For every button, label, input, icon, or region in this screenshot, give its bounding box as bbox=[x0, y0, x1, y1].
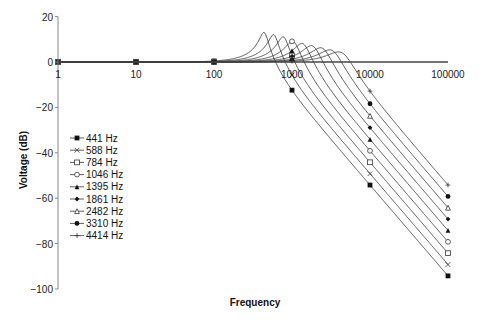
y-tick-label: −100 bbox=[30, 284, 53, 295]
legend-label: 4414 Hz bbox=[86, 230, 123, 241]
legend-label: 2482 Hz bbox=[86, 206, 123, 217]
x-tick-label: 100000 bbox=[431, 69, 465, 80]
x-axis: 110100100010000100000 bbox=[55, 62, 465, 80]
legend-label: 1046 Hz bbox=[86, 169, 123, 180]
legend-item: 784 Hz bbox=[70, 157, 118, 168]
x-tick-label: 10 bbox=[130, 69, 142, 80]
legend-item: 441 Hz bbox=[70, 133, 118, 144]
y-tick-label: −60 bbox=[36, 193, 53, 204]
legend-label: 784 Hz bbox=[86, 157, 118, 168]
x-axis-title: Frequency bbox=[230, 297, 281, 308]
x-tick-label: 100 bbox=[206, 69, 223, 80]
legend-item: 3310 Hz bbox=[70, 218, 123, 229]
legend-item: 2482 Hz bbox=[70, 206, 123, 217]
y-tick-label: 20 bbox=[42, 12, 54, 23]
legend-item: 588 Hz bbox=[70, 145, 118, 156]
legend-item: 4414 Hz bbox=[70, 230, 123, 241]
legend: 441 Hz588 Hz784 Hz1046 Hz1395 Hz1861 Hz2… bbox=[70, 133, 123, 242]
y-axis: 200−20−40−60−80−100 bbox=[30, 12, 58, 295]
legend-label: 3310 Hz bbox=[86, 218, 123, 229]
y-tick-label: −40 bbox=[36, 148, 53, 159]
legend-item: 1861 Hz bbox=[70, 194, 123, 205]
x-tick-label: 1000 bbox=[281, 69, 304, 80]
y-axis-title: Voltage (dB) bbox=[18, 131, 29, 189]
legend-label: 1395 Hz bbox=[86, 181, 123, 192]
legend-label: 441 Hz bbox=[86, 133, 118, 144]
y-tick-label: −20 bbox=[36, 102, 53, 113]
y-tick-label: −80 bbox=[36, 239, 53, 250]
legend-item: 1046 Hz bbox=[70, 169, 123, 180]
legend-label: 1861 Hz bbox=[86, 194, 123, 205]
x-tick-label: 1 bbox=[55, 69, 61, 80]
y-tick-label: 0 bbox=[47, 57, 53, 68]
x-tick-label: 10000 bbox=[356, 69, 384, 80]
legend-label: 588 Hz bbox=[86, 145, 118, 156]
legend-item: 1395 Hz bbox=[70, 181, 123, 192]
frequency-response-chart: 200−20−40−60−80−100 11010010001000010000… bbox=[0, 0, 481, 321]
